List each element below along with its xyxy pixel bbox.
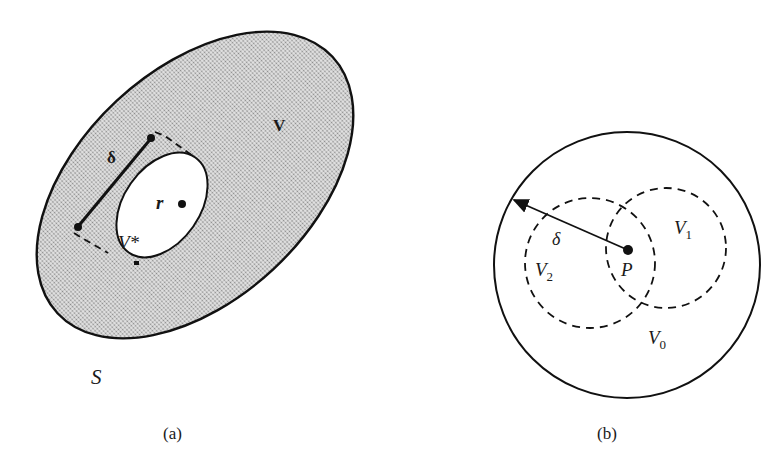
label-delta-b: δ: [552, 229, 561, 249]
panel-b: δ P V1 V2 V0 (b): [494, 132, 760, 443]
panel-a: δ r V* V S (a): [0, 0, 411, 443]
label-S: S: [91, 365, 102, 389]
label-V-a: V: [273, 116, 286, 135]
inner-tick: [134, 261, 139, 265]
delta-arrow-end-bottom: [74, 223, 82, 231]
caption-b: (b): [597, 424, 617, 443]
label-r: r: [156, 192, 164, 213]
figure-canvas: δ r V* V S (a) δ P V1 V2 V0 (b): [0, 0, 767, 458]
point-P: [623, 245, 633, 255]
label-V-star: V*: [118, 232, 140, 253]
label-P: P: [620, 259, 633, 280]
caption-a: (a): [163, 424, 182, 443]
point-r: [178, 200, 186, 208]
delta-arrow-end-top: [147, 134, 155, 142]
label-delta-a: δ: [107, 148, 116, 167]
